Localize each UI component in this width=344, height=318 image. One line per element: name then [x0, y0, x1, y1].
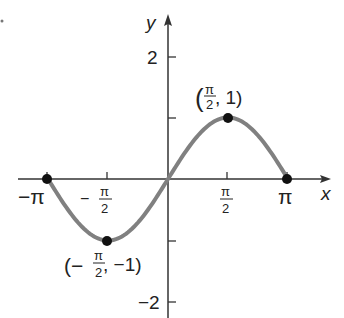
x-tick-label-half-pi: π 2 — [220, 184, 233, 216]
x-axis-label: x — [320, 183, 332, 204]
max-point-annotation: ( π 2 , 1) — [195, 82, 242, 113]
stray-dot — [1, 20, 4, 23]
fraction-den: 2 — [206, 97, 213, 112]
fraction-num: π — [221, 184, 230, 199]
min-point-annotation: (− π 2 , −1) — [64, 248, 142, 280]
point-min — [102, 236, 112, 246]
minus-sign: − — [80, 190, 89, 207]
open-paren: ( — [195, 83, 204, 113]
point-neg-pi — [42, 174, 52, 184]
y-axis-label: y — [144, 12, 157, 33]
x-tick-label-neg-pi: −π — [18, 185, 45, 208]
fraction-num: π — [100, 184, 109, 199]
fraction-den: 2 — [95, 265, 102, 280]
coord-rest: , −1) — [103, 254, 142, 275]
fraction-den: 2 — [222, 201, 229, 216]
sine-chart: y x 2 −2 −π π − π 2 π 2 ( π 2 , 1) (− π … — [0, 0, 344, 318]
point-pi — [282, 174, 292, 184]
y-tick-label-2: 2 — [147, 47, 158, 68]
fraction-den: 2 — [101, 201, 108, 216]
x-tick-label-pi: π — [278, 185, 293, 208]
point-max — [223, 113, 233, 123]
open-paren-minus: (− — [64, 254, 83, 277]
coord-rest: , 1) — [215, 87, 242, 108]
fraction-num: π — [205, 82, 214, 97]
fraction-num: π — [94, 248, 103, 263]
x-tick-label-neg-half-pi: − π 2 — [80, 184, 112, 216]
y-tick-label-neg-2: −2 — [138, 292, 160, 313]
